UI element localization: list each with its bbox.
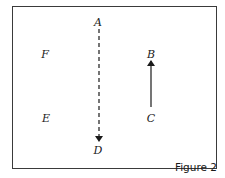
arrows-layer	[0, 0, 225, 178]
point-label-b: B	[147, 49, 155, 60]
point-label-a: A	[94, 17, 102, 28]
figure-caption: Figure 2	[175, 162, 217, 173]
point-label-d: D	[94, 145, 103, 156]
point-label-e: E	[42, 113, 50, 124]
point-label-f: F	[41, 49, 49, 60]
point-label-c: C	[147, 113, 155, 124]
